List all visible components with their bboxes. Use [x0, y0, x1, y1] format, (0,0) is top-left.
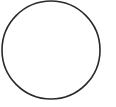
canvas — [0, 0, 116, 107]
circle-outline — [2, 1, 100, 99]
